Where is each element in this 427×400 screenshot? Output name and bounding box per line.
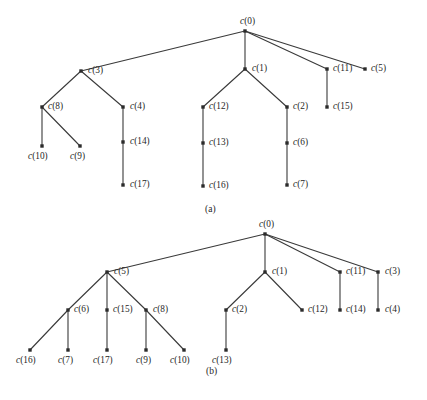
tree-node-label-c16: c(16): [209, 181, 229, 190]
tree-node-c4[interactable]: [376, 308, 379, 311]
tree-node-c6[interactable]: [66, 308, 69, 311]
tree-node-label-c12: c(12): [209, 102, 229, 111]
tree-node-c4[interactable]: [121, 105, 124, 108]
tree-node-label-c15: c(15): [333, 102, 353, 111]
tree-node-c10[interactable]: [182, 348, 185, 351]
panel-b-nodes: [28, 232, 379, 351]
tree-node-label-c13: c(13): [209, 138, 229, 147]
figure-caption-a: (a): [205, 205, 216, 215]
tree-node-c11[interactable]: [325, 67, 328, 70]
tree-canvas: [0, 0, 427, 400]
tree-edge: [245, 69, 287, 107]
tree-node-c16[interactable]: [28, 348, 31, 351]
tree-node-label-c9: c(9): [136, 356, 151, 365]
tree-node-c7[interactable]: [66, 348, 69, 351]
tree-node-c0[interactable]: [243, 29, 246, 32]
tree-node-c15[interactable]: [325, 105, 328, 108]
tree-node-label-c3: c(3): [385, 267, 400, 276]
tree-node-label-c1: c(1): [252, 64, 267, 73]
tree-node-label-c7: c(7): [293, 180, 308, 189]
tree-node-c6[interactable]: [285, 141, 288, 144]
tree-node-label-c10: c(10): [170, 356, 190, 365]
tree-node-c2[interactable]: [285, 105, 288, 108]
tree-edge: [265, 272, 302, 310]
tree-node-label-c0: c(0): [240, 17, 255, 26]
tree-node-c16[interactable]: [201, 184, 204, 187]
tree-node-c12[interactable]: [300, 308, 303, 311]
tree-node-label-c17: c(17): [93, 356, 113, 365]
tree-node-label-c10: c(10): [28, 152, 48, 161]
tree-node-c8[interactable]: [144, 308, 147, 311]
tree-node-label-c1: c(1): [272, 267, 287, 276]
tree-node-c0[interactable]: [263, 232, 266, 235]
tree-node-c7[interactable]: [285, 183, 288, 186]
tree-node-c15[interactable]: [105, 308, 108, 311]
tree-node-label-c2: c(2): [293, 102, 308, 111]
tree-node-label-c12: c(12): [308, 305, 328, 314]
tree-node-c11[interactable]: [338, 270, 341, 273]
tree-node-label-c4: c(4): [385, 305, 400, 314]
tree-node-label-c9: c(9): [70, 152, 85, 161]
tree-node-c2[interactable]: [224, 308, 227, 311]
tree-node-label-c16: c(16): [16, 356, 36, 365]
tree-node-label-c11: c(11): [333, 64, 352, 73]
tree-node-c17[interactable]: [121, 183, 124, 186]
tree-node-label-c8: c(8): [153, 305, 168, 314]
tree-node-c1[interactable]: [243, 67, 246, 70]
tree-node-label-c6: c(6): [293, 138, 308, 147]
tree-node-c3[interactable]: [376, 270, 379, 273]
tree-node-label-c8: c(8): [48, 102, 63, 111]
tree-node-c10[interactable]: [40, 144, 43, 147]
tree-node-label-c14: c(14): [346, 305, 366, 314]
tree-edge: [42, 107, 80, 146]
tree-node-c14[interactable]: [121, 140, 124, 143]
tree-node-c13[interactable]: [201, 141, 204, 144]
panel-b-edges: [30, 234, 378, 350]
tree-node-c9[interactable]: [78, 144, 81, 147]
tree-edge: [107, 234, 265, 272]
tree-node-label-c11: c(11): [346, 267, 365, 276]
tree-node-c12[interactable]: [201, 105, 204, 108]
tree-node-c17[interactable]: [105, 348, 108, 351]
tree-edge: [30, 310, 68, 350]
figure-caption-b: (b): [206, 367, 217, 377]
tree-edge: [146, 310, 184, 350]
tree-node-label-c3: c(3): [88, 66, 103, 75]
tree-node-label-c7: c(7): [58, 356, 73, 365]
tree-node-label-c2: c(2): [232, 305, 247, 314]
tree-node-c1[interactable]: [263, 270, 266, 273]
tree-node-label-c6: c(6): [74, 305, 89, 314]
tree-node-c9[interactable]: [144, 348, 147, 351]
tree-node-label-c5: c(5): [371, 64, 386, 73]
tree-node-label-c4: c(4): [130, 102, 145, 111]
tree-node-c13[interactable]: [224, 348, 227, 351]
tree-node-c5[interactable]: [363, 67, 366, 70]
tree-node-c8[interactable]: [40, 105, 43, 108]
tree-node-label-c15: c(15): [113, 305, 133, 314]
tree-node-label-c5: c(5): [114, 267, 129, 276]
tree-node-label-c14: c(14): [130, 137, 150, 146]
tree-node-c14[interactable]: [338, 308, 341, 311]
tree-node-c3[interactable]: [79, 69, 82, 72]
tree-node-label-c13: c(13): [212, 356, 232, 365]
tree-node-label-c17: c(17): [130, 180, 150, 189]
tree-node-c5[interactable]: [105, 270, 108, 273]
tree-edge: [81, 31, 245, 71]
tree-node-label-c0: c(0): [259, 220, 274, 229]
tree-figure: c(0)c(3)c(1)c(11)c(5)c(8)c(4)c(12)c(2)c(…: [0, 0, 427, 400]
tree-edge: [81, 71, 123, 107]
